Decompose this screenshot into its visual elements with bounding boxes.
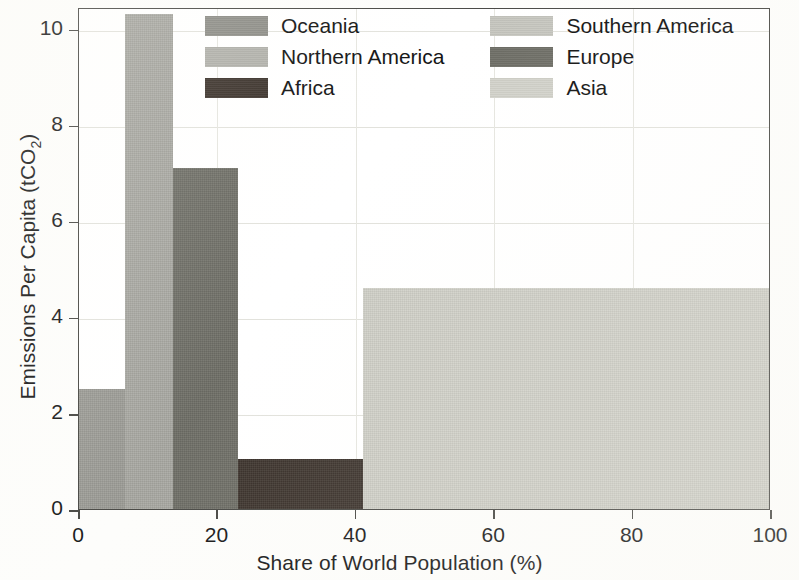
legend-swatch-asia: [490, 78, 553, 98]
y-tick: [69, 510, 78, 512]
bar-europe: [173, 168, 238, 509]
legend-swatch-europe: [490, 47, 553, 67]
legend-swatch-oceania: [205, 16, 268, 36]
x-tick-label: 40: [325, 523, 385, 547]
x-tick: [632, 510, 634, 519]
legend-item-oceania: Oceania: [205, 12, 444, 39]
co2-subscript: 2: [28, 141, 44, 149]
bar-asia: [363, 288, 770, 509]
x-tick: [78, 510, 80, 519]
x-tick: [355, 510, 357, 519]
legend-swatch-northern-america: [205, 47, 268, 67]
bar-oceania: [79, 389, 125, 509]
x-tick-label: 100: [740, 523, 799, 547]
x-tick: [216, 510, 218, 519]
y-tick: [69, 222, 78, 224]
legend-item-northern-america: Northern America: [205, 43, 444, 70]
legend-label-africa: Africa: [281, 76, 335, 100]
legend-label-southern-america: Southern America: [566, 14, 733, 38]
y-axis-title: Emissions Per Capita (tCO2): [16, 32, 43, 502]
y-tick: [69, 414, 78, 416]
bar-northern-america: [125, 14, 173, 509]
x-tick-label: 20: [186, 523, 246, 547]
y-tick: [69, 30, 78, 32]
legend-item-europe: Europe: [490, 43, 733, 70]
legend-swatch-africa: [205, 78, 268, 98]
chart-figure: 0246810 020406080100 OceaniaSouthern Ame…: [0, 0, 799, 580]
x-tick-label: 60: [463, 523, 523, 547]
legend-item-africa: Africa: [205, 74, 444, 101]
x-axis-title: Share of World Population (%): [0, 551, 799, 575]
chart-legend: OceaniaSouthern AmericaNorthern AmericaE…: [205, 12, 733, 101]
x-tick: [770, 510, 772, 519]
bar-africa: [238, 459, 363, 509]
x-tick-label: 80: [602, 523, 662, 547]
legend-item-southern-america: Southern America: [490, 12, 733, 39]
legend-label-europe: Europe: [566, 45, 634, 69]
legend-swatch-southern-america: [490, 16, 553, 36]
x-tick: [493, 510, 495, 519]
legend-label-northern-america: Northern America: [281, 45, 444, 69]
legend-item-asia: Asia: [490, 74, 733, 101]
y-tick: [69, 318, 78, 320]
x-tick-label: 0: [48, 523, 108, 547]
y-tick: [69, 126, 78, 128]
legend-label-asia: Asia: [566, 76, 607, 100]
legend-label-oceania: Oceania: [281, 14, 359, 38]
